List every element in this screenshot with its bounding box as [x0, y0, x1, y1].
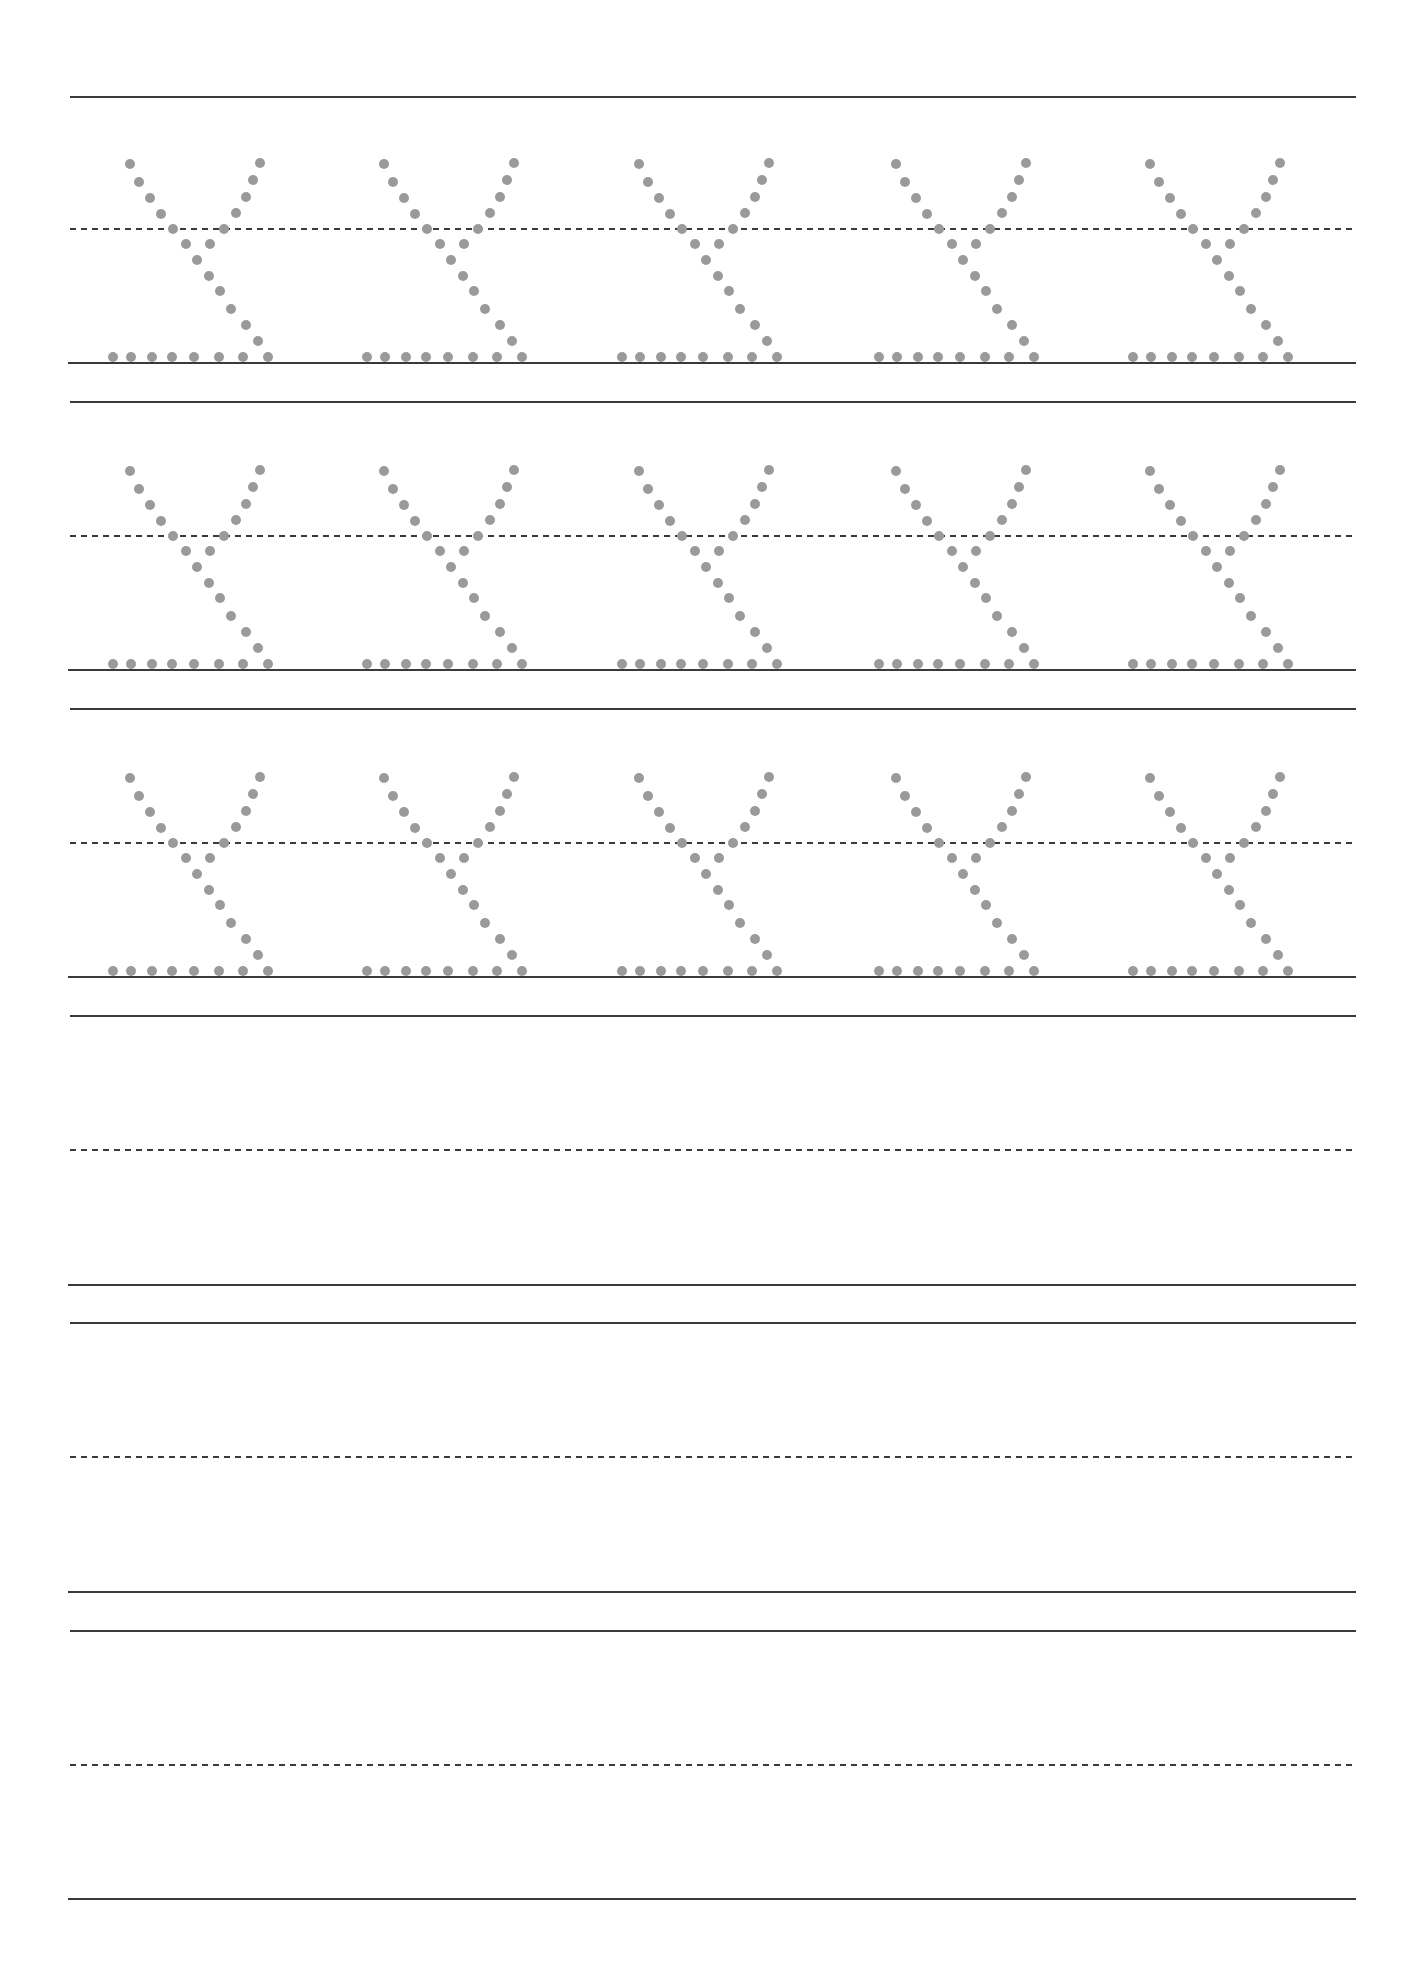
trace-dot — [473, 224, 483, 234]
trace-dot — [634, 466, 644, 476]
trace-dot — [970, 578, 980, 588]
trace-dot — [656, 352, 666, 362]
dotted-letter-y — [874, 772, 1039, 976]
trace-dot — [1154, 484, 1164, 494]
trace-dot — [750, 192, 760, 202]
handwriting-worksheet — [0, 0, 1425, 1979]
trace-dot — [1239, 224, 1249, 234]
trace-dot — [656, 966, 666, 976]
trace-dot — [204, 885, 214, 895]
trace-dot — [1165, 500, 1175, 510]
trace-dot — [1007, 806, 1017, 816]
trace-dot — [1029, 352, 1039, 362]
trace-dot — [980, 352, 990, 362]
trace-dot — [1283, 966, 1293, 976]
trace-dot — [713, 271, 723, 281]
trace-dot — [1235, 900, 1245, 910]
trace-dot — [750, 499, 760, 509]
trace-dot — [714, 546, 724, 556]
trace-dot — [215, 286, 225, 296]
trace-dot — [764, 772, 774, 782]
trace-dot — [443, 352, 453, 362]
trace-dot — [1019, 950, 1029, 960]
trace-dot — [253, 643, 263, 653]
trace-dot — [421, 352, 431, 362]
trace-dot — [181, 239, 191, 249]
trace-dot — [226, 304, 236, 314]
trace-dot — [1007, 934, 1017, 944]
dotted-letter-y — [617, 772, 782, 976]
trace-dot — [892, 966, 902, 976]
trace-dot — [410, 516, 420, 526]
trace-dot — [255, 158, 265, 168]
trace-dot — [740, 208, 750, 218]
trace-dot — [125, 466, 135, 476]
trace-dot — [723, 659, 733, 669]
trace-dot — [1224, 271, 1234, 281]
writing-row[interactable] — [68, 1016, 1356, 1285]
trace-dot — [643, 484, 653, 494]
writing-row[interactable] — [68, 709, 1356, 977]
trace-dot — [1146, 966, 1156, 976]
dotted-letter-y — [1128, 772, 1293, 976]
writing-row[interactable] — [68, 97, 1356, 363]
trace-dot — [205, 546, 215, 556]
trace-dot — [459, 853, 469, 863]
trace-dot — [676, 966, 686, 976]
writing-row[interactable] — [68, 402, 1356, 670]
trace-dot — [654, 193, 664, 203]
trace-dot — [934, 838, 944, 848]
trace-dot — [399, 193, 409, 203]
trace-dot — [492, 966, 502, 976]
trace-dot — [469, 593, 479, 603]
trace-dot — [913, 966, 923, 976]
trace-dot — [933, 659, 943, 669]
writing-row[interactable] — [68, 1323, 1356, 1592]
trace-dot — [492, 352, 502, 362]
trace-dot — [126, 352, 136, 362]
trace-dot — [156, 209, 166, 219]
trace-dot — [189, 966, 199, 976]
trace-dot — [1234, 352, 1244, 362]
trace-dot — [422, 531, 432, 541]
trace-dot — [205, 853, 215, 863]
trace-dot — [698, 659, 708, 669]
trace-dot — [747, 352, 757, 362]
trace-dot — [108, 352, 118, 362]
trace-dot — [922, 516, 932, 526]
trace-dot — [189, 352, 199, 362]
trace-dot — [469, 286, 479, 296]
trace-dot — [380, 352, 390, 362]
trace-dot — [410, 209, 420, 219]
trace-dot — [1239, 531, 1249, 541]
trace-dot — [1258, 966, 1268, 976]
trace-dot — [1014, 789, 1024, 799]
trace-dot — [125, 773, 135, 783]
trace-dot — [502, 175, 512, 185]
trace-dot — [997, 208, 1007, 218]
dotted-letter-y — [874, 158, 1039, 362]
trace-dot — [724, 900, 734, 910]
trace-dot — [167, 352, 177, 362]
trace-dot — [507, 950, 517, 960]
trace-dot — [238, 659, 248, 669]
trace-dot — [248, 175, 258, 185]
trace-dot — [1273, 643, 1283, 653]
trace-dot — [1268, 175, 1278, 185]
trace-dot — [1212, 255, 1222, 265]
trace-dot — [1235, 286, 1245, 296]
trace-dot — [215, 593, 225, 603]
trace-dot — [735, 304, 745, 314]
trace-dot — [388, 484, 398, 494]
trace-dot — [617, 352, 627, 362]
trace-dot — [204, 578, 214, 588]
writing-row[interactable] — [68, 1631, 1356, 1899]
trace-dot — [480, 918, 490, 928]
trace-dot — [728, 224, 738, 234]
trace-dot — [517, 352, 527, 362]
trace-dot — [900, 791, 910, 801]
trace-dot — [1273, 950, 1283, 960]
trace-dot — [1225, 239, 1235, 249]
trace-dot — [214, 352, 224, 362]
trace-dot — [1275, 465, 1285, 475]
